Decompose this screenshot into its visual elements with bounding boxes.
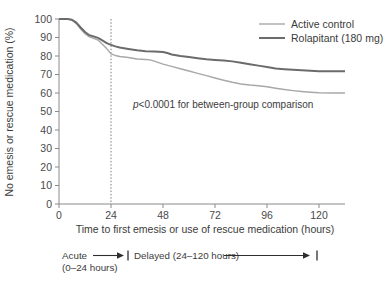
delayed-phase-label: Delayed (24–120 hours) xyxy=(134,250,239,261)
y-tick-marks xyxy=(55,19,59,204)
acute-phase-label: Acute xyxy=(62,250,88,261)
phase-annotation-group: Acute (0–24 hours) Delayed (24–120 hours… xyxy=(62,250,317,273)
y-tick-label-30: 30 xyxy=(40,142,52,154)
y-tick-label-60: 60 xyxy=(40,87,52,99)
x-tick-label-120: 120 xyxy=(310,209,328,221)
y-tick-label-0: 0 xyxy=(46,198,52,210)
y-axis-title-group: No emesis or rescue medication (%) xyxy=(3,27,15,196)
p-value-body: <0.0001 for between-group comparison xyxy=(139,99,314,110)
x-tick-label-24: 24 xyxy=(105,209,117,221)
x-tick-label-0: 0 xyxy=(56,209,62,221)
y-tick-label-50: 50 xyxy=(40,105,52,117)
x-axis-group: 024487296120 Time to first emesis or use… xyxy=(56,204,345,235)
y-tick-label-40: 40 xyxy=(40,124,52,136)
kaplan-meier-figure: No emesis or rescue medication (%) 01020… xyxy=(0,0,391,283)
y-tick-label-100: 100 xyxy=(34,13,52,25)
legend-label-1: Rolapitant (180 mg) xyxy=(291,32,383,44)
x-tick-marks xyxy=(59,204,319,208)
chart-canvas: No emesis or rescue medication (%) 01020… xyxy=(0,0,391,283)
acute-phase-sublabel: (0–24 hours) xyxy=(62,262,118,273)
legend-label-0: Active control xyxy=(291,18,354,30)
y-tick-label-70: 70 xyxy=(40,68,52,80)
y-tick-label-90: 90 xyxy=(40,31,52,43)
p-value-text: p<0.0001 for between-group comparison xyxy=(132,99,313,110)
y-axis-group: 0102030405060708090100 xyxy=(34,13,59,210)
y-tick-label-80: 80 xyxy=(40,50,52,62)
x-tick-label-72: 72 xyxy=(209,209,221,221)
delayed-arrow-head xyxy=(303,252,310,259)
y-tick-label-20: 20 xyxy=(40,161,52,173)
x-tick-labels: 024487296120 xyxy=(56,209,328,221)
curve-series-0 xyxy=(59,19,345,93)
y-tick-labels: 0102030405060708090100 xyxy=(34,13,52,210)
y-axis-title: No emesis or rescue medication (%) xyxy=(3,27,15,196)
chart-legend: Active controlRolapitant (180 mg) xyxy=(259,18,383,44)
survival-curves xyxy=(59,19,345,93)
acute-arrow-head xyxy=(117,252,124,259)
x-tick-label-48: 48 xyxy=(157,209,169,221)
y-tick-label-10: 10 xyxy=(40,179,52,191)
x-tick-label-96: 96 xyxy=(261,209,273,221)
p-value-annotation: p<0.0001 for between-group comparison xyxy=(132,99,313,110)
x-axis-title: Time to first emesis or use of rescue me… xyxy=(76,223,335,235)
